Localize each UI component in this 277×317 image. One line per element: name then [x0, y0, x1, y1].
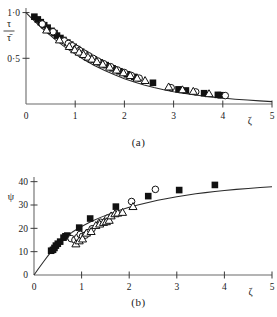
x-tick-label: 0 — [32, 282, 37, 292]
marker-open-circle — [39, 21, 46, 28]
marker-filled-square — [76, 224, 83, 231]
plot-b: 012345010203040ψζ — [0, 157, 277, 317]
marker-filled-square — [176, 187, 183, 194]
y-axis-label-denominator: τ̄ — [7, 32, 13, 43]
x-tick-label: 5 — [270, 282, 275, 292]
y-tick-label: 0·5 — [7, 54, 20, 64]
series-open-triangle — [43, 26, 213, 97]
x-axis-label: ζ — [248, 115, 252, 127]
y-axis-label: ψ — [8, 191, 15, 202]
x-tick-label: 0 — [24, 111, 29, 121]
marker-filled-square — [87, 215, 94, 222]
x-tick-label: 5 — [270, 111, 275, 121]
marker-open-circle — [50, 28, 57, 35]
x-tick-label: 4 — [222, 282, 227, 292]
y-tick-label: 0 — [23, 270, 28, 280]
marker-open-circle — [152, 186, 159, 193]
y-tick-label: 40 — [19, 177, 29, 187]
theory-curve — [34, 187, 272, 275]
theory-curve — [26, 13, 272, 102]
x-tick-label: 1 — [73, 111, 78, 121]
y-tick-label: 30 — [19, 200, 29, 210]
y-tick-label: 10 — [19, 247, 29, 257]
panel-b-caption: (b) — [0, 296, 277, 308]
marker-filled-square — [150, 79, 157, 86]
x-tick-label: 2 — [122, 111, 127, 121]
series-filled-square — [31, 13, 224, 98]
marker-filled-square — [145, 193, 152, 200]
y-tick-label: 20 — [19, 224, 29, 234]
x-tick-label: 4 — [220, 111, 225, 121]
y-axis-label-numerator: τ — [7, 18, 11, 29]
x-tick-label: 3 — [174, 282, 179, 292]
x-tick-label: 3 — [171, 111, 176, 121]
y-tick-label: 1·0 — [7, 8, 20, 18]
series-open-circle — [39, 21, 229, 99]
panel-a-caption: (a) — [0, 136, 277, 148]
panel-b: 012345010203040ψζ — [0, 157, 277, 317]
marker-open-circle — [222, 92, 229, 99]
marker-filled-square — [212, 182, 219, 189]
x-tick-label: 2 — [127, 282, 132, 292]
figure-container: 0123450·51·0ττ̄ζ (a) 012345010203040ψζ (… — [0, 0, 277, 317]
x-tick-label: 1 — [79, 282, 84, 292]
